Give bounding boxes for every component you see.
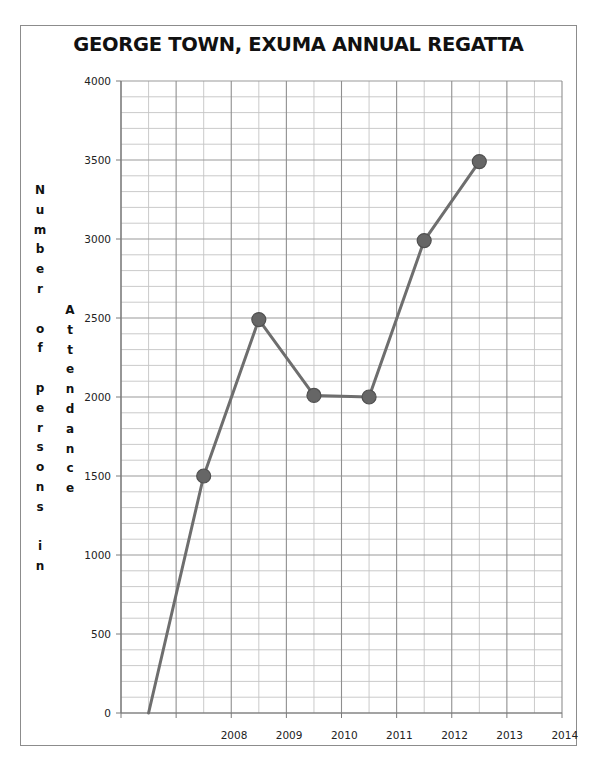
data-point-marker	[197, 469, 211, 483]
x-tick-label: 2009	[276, 729, 303, 741]
data-point-marker	[472, 155, 486, 169]
axes	[116, 81, 562, 718]
y-tick-label: 1500	[84, 470, 111, 482]
data-point-marker	[417, 234, 431, 248]
series-group	[149, 155, 487, 713]
y-tick-label: 2000	[84, 391, 111, 403]
data-point-marker	[252, 313, 266, 327]
y-tick-label: 1000	[84, 549, 111, 561]
x-tick-label: 2013	[496, 729, 523, 741]
y-tick-label: 3500	[84, 154, 111, 166]
x-tick-label: 2014	[551, 729, 578, 741]
x-tick-label: 2010	[331, 729, 358, 741]
line-chart: 05001000150020002500300035004000 2008200…	[0, 0, 595, 769]
y-tick-label: 3000	[84, 233, 111, 245]
y-tick-label: 500	[91, 628, 111, 640]
data-point-marker	[362, 390, 376, 404]
x-tick-label: 2011	[386, 729, 413, 741]
y-tick-labels: 05001000150020002500300035004000	[84, 75, 111, 719]
y-tick-label: 4000	[84, 75, 111, 87]
x-tick-label: 2012	[441, 729, 468, 741]
data-point-marker	[307, 388, 321, 402]
x-tick-label: 2008	[221, 729, 248, 741]
y-tick-label: 0	[104, 707, 111, 719]
x-tick-labels: 2008200920102011201220132014	[221, 729, 579, 741]
y-tick-label: 2500	[84, 312, 111, 324]
